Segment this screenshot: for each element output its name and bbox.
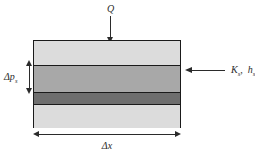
left-arrow-icon [185, 67, 192, 73]
width-label: Δx [33, 139, 181, 153]
thickness-dimension-group: Δps [4, 60, 36, 96]
layered-slab [33, 40, 181, 128]
label-separator: , [240, 64, 243, 75]
diagram-canvas: Q Δps Ks, hs Δx [0, 0, 255, 156]
coefficient-subscript: s [253, 70, 255, 77]
vertical-arrow-shaft [29, 64, 30, 90]
horizontal-arrow-shaft [37, 134, 177, 135]
middle-layer [34, 66, 180, 93]
heat-flux-arrow-group: Q [102, 3, 126, 43]
heat-flux-label: Q [107, 3, 114, 14]
left-arrow-shaft [192, 70, 225, 71]
thickness-label-subscript: s [15, 77, 18, 84]
thickness-label-main: Δp [4, 71, 15, 82]
thickness-label: Δps [4, 70, 17, 88]
down-arrow-shaft [110, 16, 111, 39]
width-dimension-group: Δx [33, 129, 181, 155]
boundary-condition-label: Ks, hs [231, 63, 255, 81]
boundary-condition-group: Ks, hs [185, 63, 255, 79]
top-layer [34, 41, 180, 66]
conductivity-symbol: K [231, 64, 238, 75]
dark-interface-layer [34, 93, 180, 105]
horizontal-arrow-head-right-icon [175, 131, 181, 137]
bottom-layer [34, 105, 180, 128]
vertical-arrow-head-down-icon [26, 88, 32, 94]
